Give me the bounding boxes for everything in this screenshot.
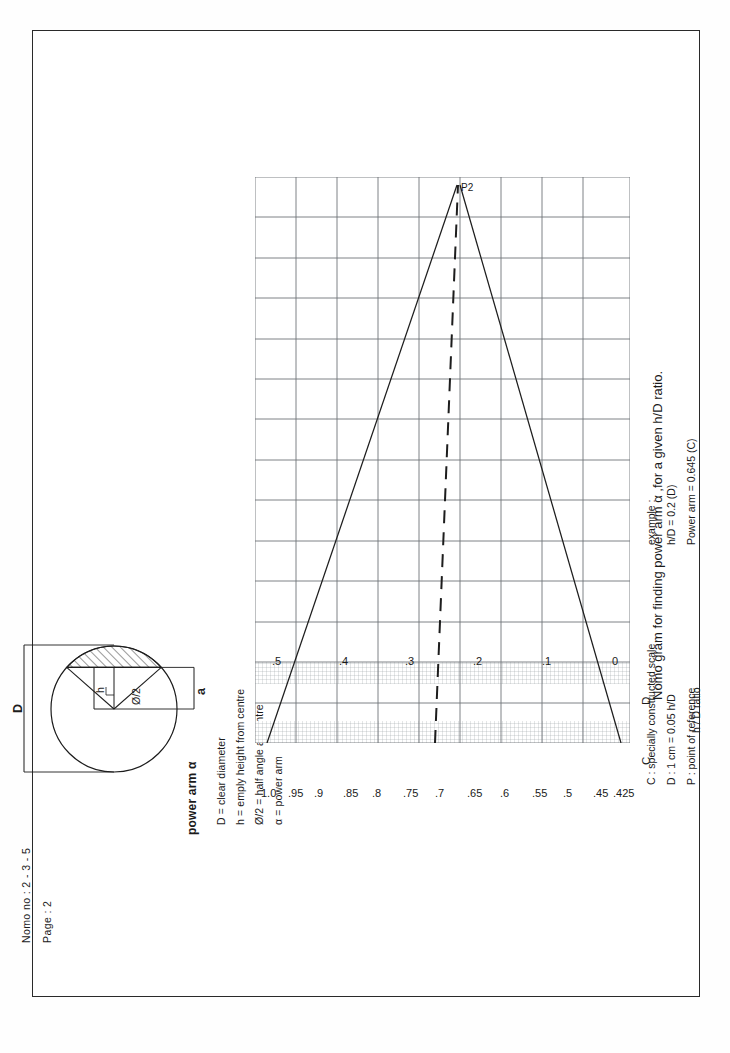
d-tick-03: .3 xyxy=(405,655,414,667)
scale-band-C xyxy=(255,721,630,743)
point-p2-label: P2 xyxy=(461,182,473,193)
c-tick-06: .6 xyxy=(500,787,509,799)
diagram-label-h: h xyxy=(94,687,106,693)
definition-item-h: h = emply height from centre xyxy=(234,689,246,825)
nomogram-grid-svg xyxy=(255,177,630,743)
grid-lines xyxy=(255,177,630,743)
c-tick-08: .8 xyxy=(372,787,381,799)
axis-title-power-arm: power arm α xyxy=(185,761,199,835)
circle-diagram-svg xyxy=(6,605,211,805)
c-tick-07: .7 xyxy=(435,787,444,799)
nomo-number-label: Nomo no : 2 - 3 - 5 xyxy=(20,848,32,943)
scale-band-D xyxy=(255,662,630,684)
c-tick-0425: .425 xyxy=(613,787,634,799)
definition-item-D: D = clear diameter xyxy=(215,689,227,825)
nomogram-chart: .425 .45 .5 .55 .6 .65 .7 .75 .8 .85 .9 … xyxy=(255,177,630,743)
diagram-label-a: a xyxy=(194,688,208,695)
note-D: D : 1 cm = 0.05 h/D xyxy=(665,644,677,785)
c-tick-10: 1.0 xyxy=(261,787,276,799)
c-tick-085: .85 xyxy=(343,787,358,799)
d-tick-04: .4 xyxy=(339,655,348,667)
construction-line-lower xyxy=(460,185,621,743)
diagram-label-phi: Ø/2 xyxy=(130,688,142,705)
page-number-label: Page : 2 xyxy=(41,848,53,943)
example-power-arm: Power arm = 0.645 (C) xyxy=(685,439,697,546)
section-diagram: D h Ø/2 a xyxy=(6,605,211,805)
diagram-label-D: D xyxy=(11,704,25,713)
c-tick-09: .9 xyxy=(314,787,323,799)
note-P: P : point of reference xyxy=(685,644,697,785)
c-tick-05: .5 xyxy=(563,787,572,799)
c-tick-075: .75 xyxy=(403,787,418,799)
c-tick-095: .95 xyxy=(288,787,303,799)
d-tick-05: .5 xyxy=(272,655,281,667)
c-tick-045: .45 xyxy=(593,787,608,799)
radius-upper xyxy=(67,667,114,709)
example-hd: h/D = 0.2 (D) xyxy=(665,439,677,546)
shaded-segment xyxy=(67,646,162,667)
rotated-drawing-canvas: Nomo no : 2 - 3 - 5 Page : 2 xyxy=(0,0,666,965)
d-tick-02: .2 xyxy=(473,655,482,667)
c-tick-065: .65 xyxy=(467,787,482,799)
c-tick-055: .55 xyxy=(532,787,547,799)
right-angle-mark xyxy=(106,687,114,695)
construction-line-upper xyxy=(267,185,457,743)
d-tick-01: .1 xyxy=(542,655,551,667)
page-root: Nomo no : 2 - 3 - 5 Page : 2 xyxy=(0,0,730,1053)
chart-caption: Nomo gram for finding power arm α ,for a… xyxy=(650,371,665,700)
d-tick-0: 0 xyxy=(612,655,618,667)
header-block: Nomo no : 2 - 3 - 5 Page : 2 xyxy=(20,848,62,943)
example-reading-line xyxy=(435,185,458,743)
